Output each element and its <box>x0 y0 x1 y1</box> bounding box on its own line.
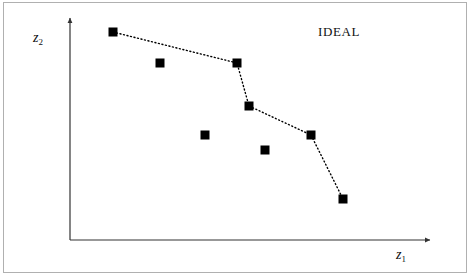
data-point-marker <box>109 28 118 37</box>
figure-root: z2 z1 IDEAL <box>0 0 470 276</box>
plot-canvas <box>0 0 470 276</box>
x-axis-label: z1 <box>396 248 406 262</box>
y-axis-label: z2 <box>33 31 43 45</box>
data-point-marker <box>156 59 165 68</box>
data-markers-group <box>109 28 348 204</box>
x-axis-label-subscript: 1 <box>401 254 406 264</box>
data-point-marker <box>339 195 348 204</box>
data-point-marker <box>261 146 270 155</box>
pareto-front-connector <box>113 32 343 199</box>
ideal-annotation-label: IDEAL <box>318 25 360 38</box>
axes-group <box>70 18 430 240</box>
data-point-marker <box>307 131 316 140</box>
data-point-marker <box>201 131 210 140</box>
data-point-marker <box>245 102 254 111</box>
y-axis-label-subscript: 2 <box>38 37 43 47</box>
data-point-marker <box>233 59 242 68</box>
connector-line-series-0 <box>113 32 343 199</box>
